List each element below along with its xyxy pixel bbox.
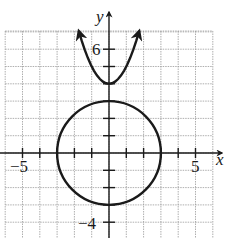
- y-tick-label-6: 6: [92, 40, 101, 59]
- x-tick-label-5: 5: [191, 157, 200, 176]
- parabola-right-branch: [109, 31, 139, 84]
- x-tick-label-neg5: −5: [10, 157, 28, 176]
- y-tick-label-neg4: −4: [78, 214, 97, 233]
- axis-labels: y x −5 5 6 −4: [10, 7, 224, 233]
- coordinate-plot: y x −5 5 6 −4: [0, 0, 227, 238]
- y-axis-label: y: [94, 7, 104, 26]
- x-axis-label: x: [215, 150, 224, 169]
